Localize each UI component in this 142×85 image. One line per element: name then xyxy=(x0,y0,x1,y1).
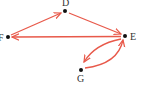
node-f xyxy=(6,35,10,39)
node-e xyxy=(123,34,127,38)
node-g xyxy=(79,68,83,72)
label-f: F xyxy=(0,32,4,43)
label-d: D xyxy=(62,0,69,8)
node-d xyxy=(63,9,67,13)
label-g: G xyxy=(77,73,84,84)
edge-d-to-e xyxy=(69,13,121,34)
edge-f-to-d xyxy=(11,13,61,35)
edge-e-to-g xyxy=(84,39,121,62)
label-e: E xyxy=(130,31,136,42)
directed-graph: D E F G xyxy=(0,0,142,85)
edge-e-to-f xyxy=(12,37,121,38)
